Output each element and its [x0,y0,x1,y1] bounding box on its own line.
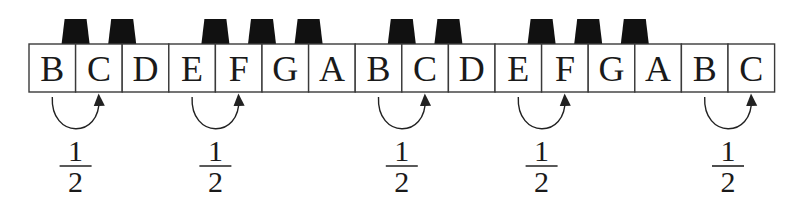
black-key [295,19,323,44]
fraction-denominator: 2 [721,165,736,198]
key-label: C [413,49,437,89]
fraction-numerator: 1 [208,134,223,167]
black-key [574,19,602,44]
key-label: G [272,49,298,89]
black-key [62,19,90,44]
white-key: F [215,44,262,92]
white-key: B [29,44,76,92]
fraction-denominator: 2 [208,165,223,198]
white-key: A [635,44,682,92]
half-step-arrow-icon [705,97,752,129]
key-label: A [319,49,345,89]
black-key [201,19,229,44]
white-key: D [448,44,495,92]
key-label: B [40,49,64,89]
fraction-numerator: 1 [68,134,83,167]
fraction-numerator: 1 [394,134,409,167]
half-step-marker: 12 [52,97,99,198]
key-label: C [739,49,763,89]
black-keys [62,19,649,44]
half-step-arrow-icon [52,97,99,129]
black-key [621,19,649,44]
white-key: E [169,44,216,92]
fraction-denominator: 2 [68,165,83,198]
key-label: C [87,49,111,89]
white-key: C [402,44,449,92]
half-step-arrow-icon [192,97,239,129]
white-key: G [588,44,635,92]
fraction-numerator: 1 [721,134,736,167]
key-label: E [181,49,203,89]
key-label: F [555,49,575,89]
white-key: F [542,44,589,92]
key-label: G [599,49,625,89]
black-key [528,19,556,44]
key-label: E [507,49,529,89]
key-label: B [693,49,717,89]
half-step-marker: 12 [378,97,425,198]
half-step-marker: 12 [192,97,239,198]
piano-half-step-diagram: BCDEFGABCDEFGABC 1212121212 [0,0,796,202]
half-step-arrow-icon [518,97,565,129]
white-key: G [262,44,309,92]
fraction-numerator: 1 [534,134,549,167]
white-key: B [681,44,728,92]
half-step-marker: 12 [518,97,565,198]
half-step-marker: 12 [705,97,752,198]
white-key: C [76,44,123,92]
fraction-denominator: 2 [534,165,549,198]
key-label: D [459,49,485,89]
black-key [108,19,136,44]
half-step-markers: 1212121212 [52,97,751,198]
fraction-denominator: 2 [394,165,409,198]
white-keys: BCDEFGABCDEFGABC [29,44,775,92]
key-label: D [133,49,159,89]
white-key: A [309,44,356,92]
black-key [248,19,276,44]
white-key: D [122,44,169,92]
white-key: E [495,44,542,92]
key-label: F [229,49,249,89]
black-key [434,19,462,44]
key-label: B [366,49,390,89]
half-step-arrow-icon [378,97,425,129]
key-label: A [645,49,671,89]
black-key [388,19,416,44]
white-key: B [355,44,402,92]
white-key: C [728,44,775,92]
